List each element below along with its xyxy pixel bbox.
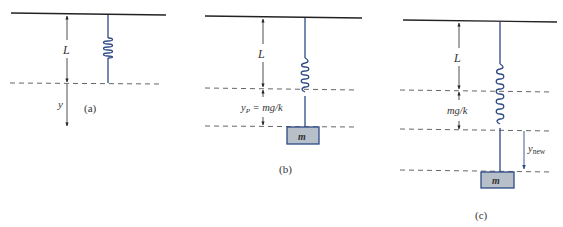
natural-length-dashed-line (400, 90, 553, 92)
panel-a: L y (a) (10, 13, 166, 126)
ceiling-line (403, 20, 557, 22)
equilibrium-dashed-line (10, 83, 163, 84)
mass-label: m (492, 175, 500, 186)
spring (301, 18, 309, 127)
stretch-label: yP = mg/k (240, 102, 283, 115)
length-label: L (257, 47, 265, 61)
caption-a: (a) (84, 102, 97, 115)
equilibrium-dashed-line (400, 129, 553, 131)
spring (104, 15, 113, 83)
natural-length-dashed-line (205, 88, 358, 90)
spring-mass-diagram: L y (a) L yP = mg/k m (b (0, 0, 563, 227)
mass-label: m (298, 131, 306, 142)
length-label: L (62, 43, 70, 57)
displaced-dashed-line (400, 170, 553, 172)
spring (496, 22, 504, 172)
displacement-label: y (57, 98, 63, 110)
ceiling-line (11, 13, 166, 15)
equilibrium-dashed-line (205, 126, 358, 127)
panel-b: L yP = mg/k m (b) (205, 16, 362, 176)
displacement-label: ynew (527, 143, 546, 156)
ceiling-line (205, 16, 362, 18)
caption-c: (c) (475, 209, 488, 222)
caption-b: (b) (279, 163, 292, 176)
length-label: L (453, 51, 461, 65)
stretch-label: mg/k (447, 105, 468, 116)
panel-c: L mg/k ynew m (c) (400, 20, 557, 222)
